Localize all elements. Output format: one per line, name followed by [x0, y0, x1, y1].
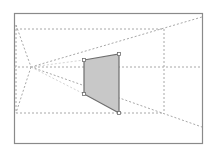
corner-handle[interactable]	[118, 53, 121, 56]
perspective-diagram	[0, 0, 212, 151]
corner-handle[interactable]	[83, 59, 86, 62]
perspective-ray-line	[31, 67, 84, 94]
perspective-quad[interactable]	[84, 54, 119, 113]
diagram-canvas	[0, 0, 212, 151]
perspective-ray-line	[16, 25, 31, 67]
corner-handle[interactable]	[83, 93, 86, 96]
corner-handle[interactable]	[118, 112, 121, 115]
perspective-ray-line	[16, 67, 31, 113]
perspective-ray-line	[31, 60, 84, 67]
